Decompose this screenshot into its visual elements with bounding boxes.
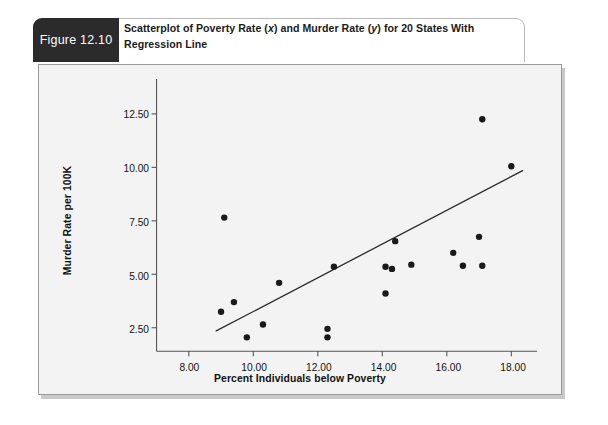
data-point bbox=[324, 326, 330, 332]
data-point bbox=[276, 280, 282, 286]
data-point bbox=[382, 264, 388, 270]
data-point bbox=[508, 163, 514, 169]
data-point bbox=[221, 214, 227, 220]
regression-line bbox=[216, 171, 522, 331]
figure-title: Scatterplot of Poverty Rate (x) and Murd… bbox=[124, 21, 504, 52]
x-tick-label: 8.00 bbox=[179, 362, 199, 373]
y-tick-label: 5.00 bbox=[105, 270, 149, 281]
figure-title-part2: ) and Murder Rate ( bbox=[274, 22, 371, 34]
axes-group bbox=[152, 79, 538, 356]
y-axis-title: Murder Rate per 100K bbox=[62, 141, 73, 301]
data-point bbox=[231, 299, 237, 305]
x-tick-label: 10.00 bbox=[241, 362, 267, 373]
data-point bbox=[244, 334, 250, 340]
x-tick-label: 16.00 bbox=[436, 362, 462, 373]
data-point bbox=[479, 263, 485, 269]
y-tick-label: 12.50 bbox=[105, 109, 149, 120]
data-point bbox=[218, 309, 224, 315]
data-point bbox=[260, 321, 266, 327]
figure-number-label: Figure 12.10 bbox=[40, 33, 113, 47]
data-point bbox=[408, 261, 414, 267]
data-point bbox=[392, 238, 398, 244]
x-tick-label: 14.00 bbox=[371, 362, 397, 373]
data-point bbox=[331, 264, 337, 270]
plot-panel: 8.0010.0012.0014.0016.0018.00 2.505.007.… bbox=[38, 64, 562, 395]
data-point bbox=[382, 290, 388, 296]
data-point bbox=[324, 334, 330, 340]
x-tick-label: 12.00 bbox=[306, 362, 332, 373]
figure-screenshot: Figure 12.10 Scatterplot of Poverty Rate… bbox=[0, 0, 608, 425]
figure-number-badge: Figure 12.10 bbox=[33, 18, 119, 62]
data-point bbox=[476, 234, 482, 240]
x-tick-label: 18.00 bbox=[500, 362, 526, 373]
y-tick-label: 10.00 bbox=[105, 162, 149, 173]
data-point bbox=[450, 250, 456, 256]
y-tick-label: 7.50 bbox=[105, 216, 149, 227]
data-point bbox=[460, 263, 466, 269]
x-axis-title: Percent Individuals below Poverty bbox=[39, 373, 561, 384]
data-point bbox=[479, 116, 485, 122]
regression-line-group bbox=[216, 171, 522, 331]
y-tick-label: 2.50 bbox=[105, 324, 149, 335]
figure-title-part1: Scatterplot of Poverty Rate ( bbox=[124, 22, 268, 34]
data-point bbox=[389, 266, 395, 272]
